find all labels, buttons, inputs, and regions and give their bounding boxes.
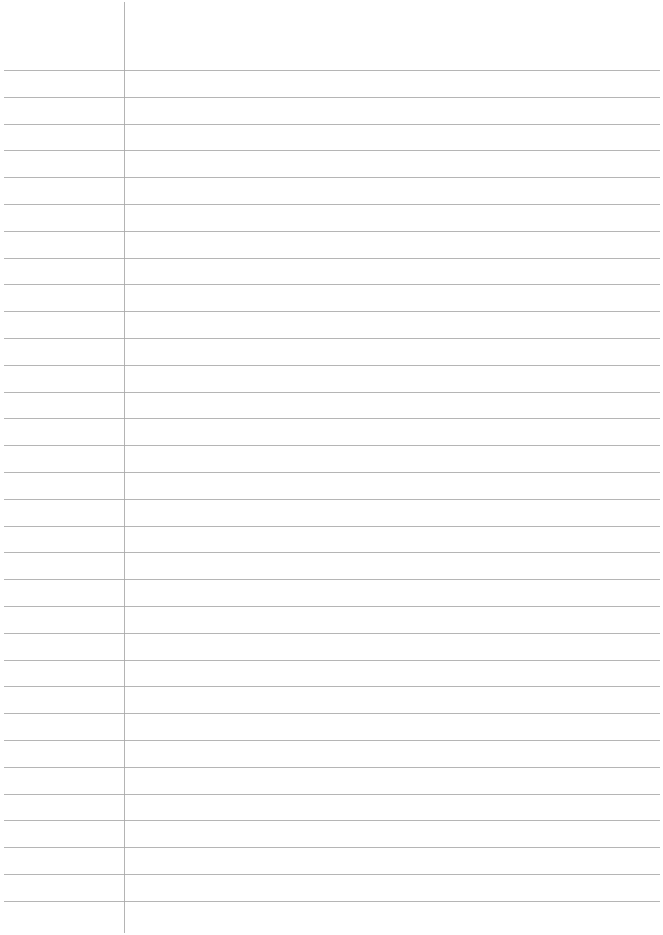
ruled-line xyxy=(4,499,660,500)
ruled-line xyxy=(4,686,660,687)
ruled-line xyxy=(4,820,660,821)
ruled-line xyxy=(4,258,660,259)
ruled-line xyxy=(4,70,660,71)
ruled-line xyxy=(4,472,660,473)
ruled-line xyxy=(4,740,660,741)
ruled-line xyxy=(4,526,660,527)
ruled-line xyxy=(4,177,660,178)
ruled-line xyxy=(4,150,660,151)
ruled-line xyxy=(4,311,660,312)
ruled-line xyxy=(4,606,660,607)
ruled-line xyxy=(4,633,660,634)
ruled-line xyxy=(4,392,660,393)
ruled-line xyxy=(4,284,660,285)
ruled-line xyxy=(4,767,660,768)
ruled-line xyxy=(4,445,660,446)
ruled-line xyxy=(4,847,660,848)
ruled-line xyxy=(4,338,660,339)
ruled-line xyxy=(4,794,660,795)
ruled-line xyxy=(4,418,660,419)
ruled-line xyxy=(4,874,660,875)
ruled-line xyxy=(4,552,660,553)
ruled-line xyxy=(4,365,660,366)
ruled-line xyxy=(4,97,660,98)
ruled-line xyxy=(4,901,660,902)
ruled-line xyxy=(4,660,660,661)
ruled-line xyxy=(4,713,660,714)
lined-paper-sheet xyxy=(0,0,663,935)
ruled-line xyxy=(4,124,660,125)
ruled-line xyxy=(4,204,660,205)
ruled-line xyxy=(4,231,660,232)
ruled-line xyxy=(4,579,660,580)
